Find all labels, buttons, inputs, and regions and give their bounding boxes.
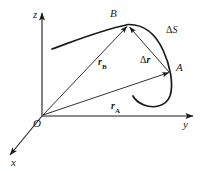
vector-r-b-label: rB <box>98 57 107 70</box>
y-axis-label: y <box>183 119 188 130</box>
vector-r-a-label: rA <box>111 101 120 114</box>
r-a-subscript: A <box>115 107 120 115</box>
z-axis-label: z <box>33 9 37 20</box>
x-axis-label: x <box>11 157 16 168</box>
point-b-label: B <box>110 8 117 19</box>
vector-r-a <box>43 73 169 116</box>
trajectory-curve <box>52 24 172 106</box>
vector-delta-r-label: Δr <box>140 55 150 65</box>
arc-length-delta-s-label: ΔS <box>166 25 177 35</box>
delta-r-symbol: r <box>146 54 150 65</box>
delta-s-symbol: S <box>172 24 177 35</box>
point-a-label: A <box>176 62 183 73</box>
origin-label: O <box>33 118 41 129</box>
physics-vector-diagram: z y x O B A rB rA Δr ΔS <box>0 0 202 172</box>
r-b-subscript: B <box>102 63 107 71</box>
